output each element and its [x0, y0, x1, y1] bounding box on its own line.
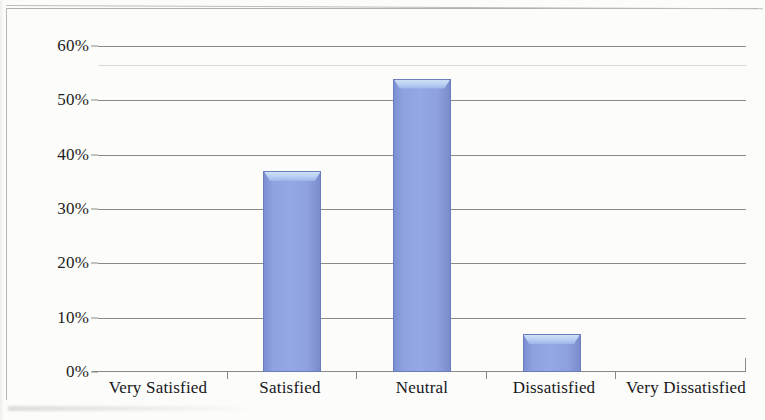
bar-dissatisfied	[523, 334, 581, 372]
x-axis-label-dissatisfied: Dissatisfied	[488, 378, 620, 398]
scan-edge-shading	[0, 0, 4, 420]
x-axis-label-neutral: Neutral	[356, 378, 488, 398]
x-axis-label-satisfied: Satisfied	[224, 378, 356, 398]
y-tickmark-40	[91, 155, 98, 156]
y-axis-label-10: 10%	[57, 308, 89, 328]
y-tickmark-0	[91, 372, 98, 373]
x-axis-labels: Very Satisfied Satisfied Neutral Dissati…	[92, 378, 752, 398]
x-axis-label-very-dissatisfied: Very Dissatisfied	[620, 378, 752, 398]
y-axis-label-50: 50%	[57, 90, 89, 110]
bar-category-very-satisfied	[98, 46, 228, 372]
bar-category-dissatisfied	[487, 46, 617, 372]
plot-area: 60% 50% 40% 30% 20% 10% 0%	[98, 46, 746, 372]
scan-smudge	[8, 406, 258, 411]
y-tickmark-50	[91, 100, 98, 101]
bar-chart: 60% 50% 40% 30% 20% 10% 0%	[0, 0, 765, 420]
bar-category-neutral	[357, 46, 487, 372]
bar-series	[98, 46, 746, 372]
y-tickmark-30	[91, 209, 98, 210]
y-axis-label-60: 60%	[57, 36, 89, 56]
y-tickmark-20	[91, 263, 98, 264]
y-tickmark-60	[91, 46, 98, 47]
y-axis-label-30: 30%	[57, 199, 89, 219]
y-axis-label-40: 40%	[57, 145, 89, 165]
bar-satisfied	[263, 171, 321, 372]
bar-category-satisfied	[228, 46, 358, 372]
bar-neutral	[393, 79, 451, 372]
y-tickmark-10	[91, 318, 98, 319]
y-axis-label-20: 20%	[57, 253, 89, 273]
bar-category-very-dissatisfied	[616, 46, 746, 372]
x-axis-label-very-satisfied: Very Satisfied	[92, 378, 224, 398]
y-axis-label-0: 0%	[66, 362, 89, 382]
